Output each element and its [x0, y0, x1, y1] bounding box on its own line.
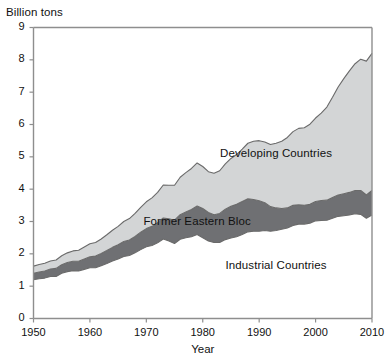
x-tick-label-2000: 2000: [294, 326, 338, 338]
x-tick-label-1960: 1960: [68, 326, 112, 338]
y-tick-label-3: 3: [7, 214, 25, 226]
series-label-former-eastern-bloc: Former Eastern Bloc: [143, 215, 250, 227]
x-tick-label-1980: 1980: [181, 326, 225, 338]
y-tick-label-8: 8: [7, 52, 25, 64]
y-tick-label-1: 1: [7, 279, 25, 291]
plot-area: [0, 0, 392, 356]
y-tick-label-2: 2: [7, 246, 25, 258]
series-label-developing-countries: Developing Countries: [220, 147, 332, 159]
y-tick-label-6: 6: [7, 117, 25, 129]
series-label-industrial-countries: Industrial Countries: [226, 259, 327, 271]
y-tick-label-4: 4: [7, 182, 25, 194]
x-axis-title: Year: [173, 343, 233, 355]
x-tick-label-1950: 1950: [12, 326, 56, 338]
x-tick-label-1990: 1990: [237, 326, 281, 338]
y-tick-label-0: 0: [7, 311, 25, 323]
chart-container: Billion tons 0123456789 1950196019701980…: [0, 0, 392, 356]
series-areas: [34, 53, 373, 318]
y-tick-label-7: 7: [7, 85, 25, 97]
y-tick-label-5: 5: [7, 149, 25, 161]
x-tick-label-1970: 1970: [124, 326, 168, 338]
y-tick-label-9: 9: [7, 20, 25, 32]
x-tick-label-2010: 2010: [350, 326, 392, 338]
